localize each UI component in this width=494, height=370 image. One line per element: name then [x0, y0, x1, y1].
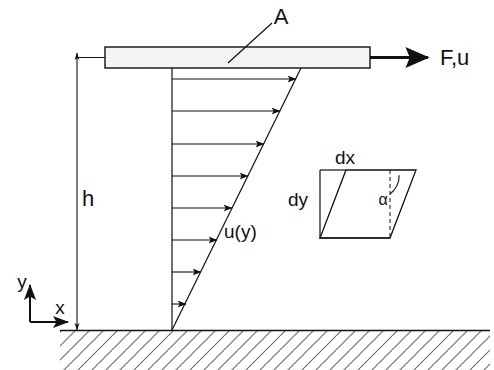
label-velocity-profile: u(y)	[224, 221, 257, 242]
moving-plate	[77, 47, 370, 68]
viscosity-couette-flow-figure: A F,u h u(y) y x dx dy α	[0, 0, 494, 370]
label-axis-x: x	[55, 297, 65, 318]
label-area: A	[274, 4, 289, 29]
figure-canvas: A F,u h u(y) y x dx dy α	[0, 0, 494, 370]
label-element-dx: dx	[335, 147, 356, 168]
label-element-alpha: α	[378, 191, 387, 208]
fixed-ground	[60, 331, 490, 370]
element-angle-arc	[390, 175, 399, 194]
velocity-profile-line	[172, 68, 301, 330]
ground-hatching	[60, 331, 490, 370]
label-axis-y: y	[17, 271, 27, 292]
shear-element-group	[320, 170, 416, 238]
velocity-profile-group	[172, 68, 301, 330]
element-sheared-parallelogram	[320, 170, 416, 238]
label-force-velocity: F,u	[440, 45, 469, 70]
plate-body	[105, 47, 370, 68]
velocity-vectors	[172, 79, 296, 304]
label-element-dy: dy	[288, 189, 309, 210]
label-height: h	[82, 186, 94, 211]
